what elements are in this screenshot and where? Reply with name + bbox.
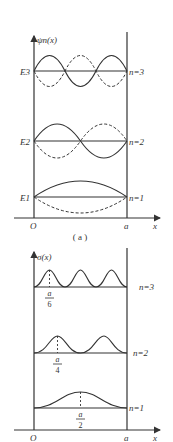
peak-denominator-2: 4 (56, 366, 60, 375)
psi-axis-label: ψn(x) (37, 35, 57, 45)
sigma-axis-label: σ(x) (37, 252, 51, 262)
wall-label-b: a (124, 433, 129, 442)
psi1-solid (34, 181, 127, 197)
energy-label-2: E2 (19, 137, 30, 147)
sigma3-curve (34, 270, 127, 287)
peak-numerator-2: a (56, 355, 60, 364)
n-label-b1: n=1 (129, 403, 144, 413)
energy-label-3: E3 (19, 67, 30, 77)
x-axis-label-b: x (152, 433, 157, 442)
panel-a-caption: ( a ) (73, 232, 88, 242)
x-axis-label: x (152, 221, 157, 231)
sigma2-curve (34, 336, 127, 353)
n-label-1: n=1 (129, 193, 144, 203)
panel-b-probability-densities: σ(x) a 6 n=3 a 4 n=2 a 2 n=1 O a x (14, 248, 160, 442)
infinite-square-well-diagram: ψn(x) E3 E2 E1 n=3 n=2 n=1 O a x ( a ) σ… (0, 0, 173, 442)
peak-denominator-1: 2 (79, 421, 83, 430)
wall-label: a (124, 221, 129, 231)
peak-denominator-3: 6 (48, 300, 52, 309)
n-label-b2: n=2 (133, 348, 149, 358)
origin-label: O (30, 221, 37, 231)
panel-a-wavefunctions: ψn(x) E3 E2 E1 n=3 n=2 n=1 O a x ( a ) (14, 32, 160, 242)
n-label-2: n=2 (129, 137, 145, 147)
origin-label-b: O (30, 433, 37, 442)
n-label-3: n=3 (129, 67, 145, 77)
n-label-b3: n=3 (139, 282, 155, 292)
energy-label-1: E1 (19, 193, 30, 203)
peak-numerator-1: a (79, 410, 83, 419)
peak-numerator-3: a (48, 289, 52, 298)
psi1-dashed (34, 197, 127, 213)
